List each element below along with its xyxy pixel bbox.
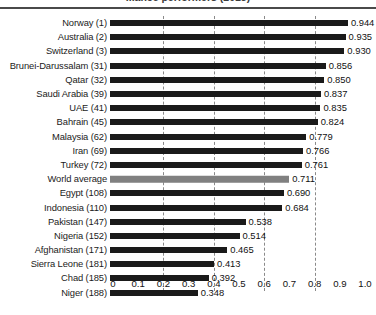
x-axis-tick-label: 0.6 — [258, 278, 271, 290]
bar-category-label: Chad (185) — [0, 273, 110, 283]
bar-value-label: 0.690 — [284, 188, 310, 198]
bar — [110, 233, 240, 239]
bar-track: 0.944 — [110, 16, 376, 30]
bar — [110, 162, 302, 168]
bar-row: Malaysia (62)0.779 — [0, 130, 376, 144]
bar-category-label: Saudi Arabia (39) — [0, 89, 110, 99]
bar-track: 0.850 — [110, 73, 376, 87]
bar-row: Australia (2)0.935 — [0, 30, 376, 44]
bar-track: 0.711 — [110, 172, 376, 186]
bar-track: 0.766 — [110, 144, 376, 158]
bar-value-label: 0.514 — [240, 231, 266, 241]
bar — [110, 20, 348, 26]
bar-value-label: 0.766 — [303, 146, 329, 156]
bar-category-label: Pakistan (147) — [0, 217, 110, 227]
bar-category-label: Turkey (72) — [0, 160, 110, 170]
bar-row: Iran (69)0.766 — [0, 144, 376, 158]
bar-value-label: 0.856 — [326, 61, 352, 71]
bar — [110, 205, 282, 211]
page-title: ...ance performers (2015) — [0, 0, 376, 4]
chart-title-container: ...ance performers (2015) — [0, 0, 376, 7]
bar-category-label: Nigeria (152) — [0, 231, 110, 241]
x-axis-tick-label: 0 — [110, 278, 115, 290]
x-axis-tick-label: 0.3 — [182, 278, 195, 290]
bar-row: Switzerland (3)0.930 — [0, 44, 376, 58]
x-axis-tick-label: 0.5 — [232, 278, 245, 290]
bar — [110, 63, 326, 69]
bar-category-label: Qatar (32) — [0, 75, 110, 85]
bar-track: 0.935 — [110, 30, 376, 44]
bar-row: Saudi Arabia (39)0.837 — [0, 87, 376, 101]
bar — [110, 134, 306, 140]
x-axis-tick-label: 0.7 — [283, 278, 296, 290]
bar-track: 0.465 — [110, 243, 376, 257]
bar-value-label: 0.835 — [320, 103, 346, 113]
bar-row: Bahrain (45)0.824 — [0, 115, 376, 129]
bar — [110, 77, 324, 83]
bar-value-label: 0.850 — [324, 75, 350, 85]
bar-chart: Norway (1)0.944Australia (2)0.935Switzer… — [0, 16, 376, 294]
bar-value-label: 0.824 — [318, 117, 344, 127]
bar-category-label: Iran (69) — [0, 146, 110, 156]
bar-value-label: 0.935 — [346, 32, 372, 42]
x-axis-tick-label: 0.4 — [207, 278, 220, 290]
bar-track: 0.690 — [110, 186, 376, 200]
bar-category-label: UAE (41) — [0, 103, 110, 113]
bar-category-label: Malaysia (62) — [0, 132, 110, 142]
bar-category-label: Australia (2) — [0, 32, 110, 42]
bar-row: Nigeria (152)0.514 — [0, 229, 376, 243]
bar-track: 0.824 — [110, 115, 376, 129]
bar-category-label: Norway (1) — [0, 18, 110, 28]
bar-track: 0.835 — [110, 101, 376, 115]
bar-category-label: Niger (188) — [0, 288, 110, 298]
bar-row: UAE (41)0.835 — [0, 101, 376, 115]
bar-value-label: 0.837 — [321, 89, 347, 99]
bar-value-label: 0.465 — [227, 245, 253, 255]
bar-track: 0.837 — [110, 87, 376, 101]
bar — [110, 105, 320, 111]
bar-row: World average0.711 — [0, 172, 376, 186]
bar-row: Egypt (108)0.690 — [0, 186, 376, 200]
bar-track: 0.856 — [110, 59, 376, 73]
bar — [110, 219, 246, 225]
bar-track: 0.779 — [110, 130, 376, 144]
bar-value-label: 0.413 — [214, 259, 240, 269]
bar-row: Brunei-Darussalam (31)0.856 — [0, 59, 376, 73]
bar-row: Qatar (32)0.850 — [0, 73, 376, 87]
bar-rows: Norway (1)0.944Australia (2)0.935Switzer… — [0, 16, 376, 300]
bar-value-label: 0.538 — [246, 217, 272, 227]
x-axis: 00.10.20.30.40.50.60.70.80.91.0 — [113, 278, 365, 294]
bar-row: Indonesia (110)0.684 — [0, 200, 376, 214]
title-divider — [0, 7, 376, 9]
bar — [110, 91, 321, 97]
bar-category-label: Afghanistan (171) — [0, 245, 110, 255]
x-axis-tick-label: 0.1 — [132, 278, 145, 290]
bar — [110, 119, 318, 125]
bar-value-label: 0.930 — [344, 46, 370, 56]
bar-value-label: 0.684 — [282, 203, 308, 213]
bar-row: Norway (1)0.944 — [0, 16, 376, 30]
bar — [110, 34, 346, 40]
bar-value-label: 0.944 — [348, 18, 374, 28]
bar-track: 0.413 — [110, 257, 376, 271]
bar — [110, 190, 284, 196]
bar-category-label: Switzerland (3) — [0, 46, 110, 56]
bar-category-label: Brunei-Darussalam (31) — [0, 61, 110, 71]
bar-track: 0.538 — [110, 215, 376, 229]
bar-row: Pakistan (147)0.538 — [0, 215, 376, 229]
bar-track: 0.761 — [110, 158, 376, 172]
bar-category-label: Sierra Leone (181) — [0, 259, 110, 269]
x-axis-tick-label: 1.0 — [358, 278, 371, 290]
x-axis-tick-label: 0.2 — [157, 278, 170, 290]
bar-category-label: Egypt (108) — [0, 188, 110, 198]
bar-category-label: Indonesia (110) — [0, 203, 110, 213]
bar — [110, 48, 344, 54]
bar-track: 0.930 — [110, 44, 376, 58]
bar-value-label: 0.779 — [306, 132, 332, 142]
bar-category-label: World average — [0, 174, 110, 184]
bar-track: 0.684 — [110, 200, 376, 214]
bar-track: 0.514 — [110, 229, 376, 243]
bar-row: Sierra Leone (181)0.413 — [0, 257, 376, 271]
x-axis-tick-label: 0.8 — [308, 278, 321, 290]
bar-row: Afghanistan (171)0.465 — [0, 243, 376, 257]
